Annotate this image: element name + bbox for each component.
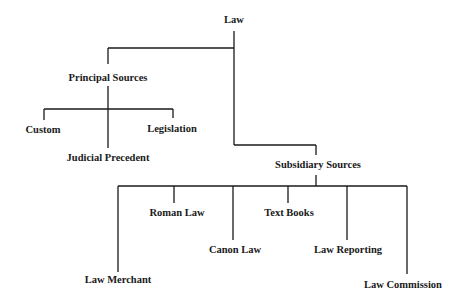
node-text-books: Text Books xyxy=(264,208,314,219)
law-sources-diagram: Law Principal Sources Custom Judicial Pr… xyxy=(0,0,458,303)
node-canon-law: Canon Law xyxy=(209,245,261,256)
node-principal-sources: Principal Sources xyxy=(69,73,148,84)
node-judicial-precedent: Judicial Precedent xyxy=(67,153,150,164)
node-law-reporting: Law Reporting xyxy=(314,245,382,256)
node-subsidiary-sources: Subsidiary Sources xyxy=(275,160,361,171)
node-custom: Custom xyxy=(25,125,60,136)
node-legislation: Legislation xyxy=(147,124,197,135)
node-law: Law xyxy=(224,15,244,26)
node-roman-law: Roman Law xyxy=(149,208,204,219)
node-law-commission: Law Commission xyxy=(364,280,442,291)
node-law-merchant: Law Merchant xyxy=(85,275,152,286)
